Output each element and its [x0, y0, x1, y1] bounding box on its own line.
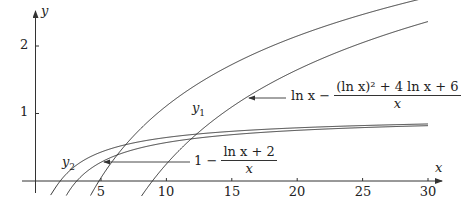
lower-formula-numerator: ln x + 2 [221, 145, 276, 161]
x-axis-label: x [435, 160, 442, 175]
x-tick-label-15: 15 [224, 184, 241, 199]
upper-formula-numerator: (ln x)² + 4 ln x + 6 [334, 80, 460, 96]
lower-formula-denominator: x [245, 161, 252, 176]
upper-formula-prefix: ln x − [291, 88, 330, 103]
y-axis-label: y [41, 3, 48, 18]
lower-formula-prefix: 1 − [194, 153, 217, 168]
y2-subscript: 2 [69, 162, 75, 172]
x-tick-label-10: 10 [158, 184, 175, 199]
y-tick-label-1: 1 [20, 104, 28, 119]
x-tick-label-25: 25 [355, 184, 372, 199]
y-tick-label-2: 2 [20, 37, 28, 52]
x-tick-label-30: 30 [420, 184, 437, 199]
x-tick-label-20: 20 [289, 184, 306, 199]
upper-formula-denominator: x [394, 96, 401, 111]
y1-subscript: 1 [199, 108, 205, 118]
upper-formula-label: ln x − (ln x)² + 4 ln x + 6 x [291, 80, 461, 111]
curve-label-y1: y1 [192, 100, 205, 118]
curve-label-y2: y2 [62, 154, 75, 172]
x-tick-label-5: 5 [97, 184, 105, 199]
lower-formula-fraction: ln x + 2 x [221, 145, 276, 176]
lower-formula-label: 1 − ln x + 2 x [194, 145, 277, 176]
upper-formula-fraction: (ln x)² + 4 ln x + 6 x [334, 80, 460, 111]
